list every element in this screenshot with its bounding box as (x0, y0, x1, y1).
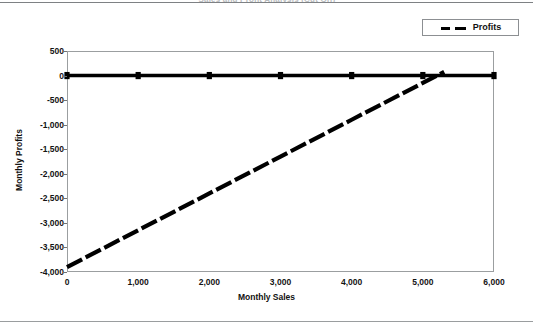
y-axis-tick-label: -4,000 (18, 268, 64, 277)
y-axis-tick-mark (63, 247, 67, 248)
y-axis-tick-mark (63, 272, 67, 273)
series-marker (491, 72, 496, 79)
line-chart: 5000-500-1,000-1,500-2,000-2,500-3,000-3… (0, 0, 533, 332)
y-axis-tick-label: -3,500 (18, 243, 64, 252)
series-marker (349, 72, 354, 79)
x-axis-tick-label: 0 (37, 278, 97, 287)
x-axis-label: Monthly Sales (0, 292, 533, 302)
x-axis-tick-label: 6,000 (464, 278, 524, 287)
x-axis-tick-label: 1,000 (108, 278, 168, 287)
y-axis-tick-mark (63, 125, 67, 126)
y-axis-tick-mark (63, 100, 67, 101)
series-marker (420, 72, 425, 79)
y-axis-tick-mark (63, 76, 67, 77)
y-axis-tick-label: -1,500 (18, 145, 64, 154)
y-axis-label: Monthly Profits (14, 115, 24, 205)
y-axis-tick-mark (63, 51, 67, 52)
y-axis-tick-label: -2,000 (18, 170, 64, 179)
y-axis-tick-label: 0 (18, 72, 64, 81)
y-axis-tick-label: -1,000 (18, 121, 64, 130)
series-marker (207, 72, 212, 79)
y-axis-tick-mark (63, 149, 67, 150)
y-axis-tick-mark (63, 198, 67, 199)
x-axis-tick-label: 4,000 (322, 278, 382, 287)
series-marker (136, 72, 141, 79)
x-axis-tick-label: 5,000 (393, 278, 453, 287)
y-axis-tick-mark (63, 174, 67, 175)
y-axis-tick-label: -2,500 (18, 194, 64, 203)
x-axis-tick-label: 3,000 (251, 278, 311, 287)
y-axis-tick-label: 500 (18, 47, 64, 56)
series-marker (278, 72, 283, 79)
x-axis-tick-label: 2,000 (179, 278, 239, 287)
chart-page: Sales and Profit Analysis (Cut Off) Prof… (0, 0, 533, 332)
y-axis-tick-label: -500 (18, 96, 64, 105)
series-line (67, 72, 444, 267)
plot-series-canvas (67, 51, 494, 272)
y-axis-tick-label: -3,000 (18, 219, 64, 228)
page-bottom-rule (0, 321, 533, 322)
y-axis-tick-mark (63, 223, 67, 224)
